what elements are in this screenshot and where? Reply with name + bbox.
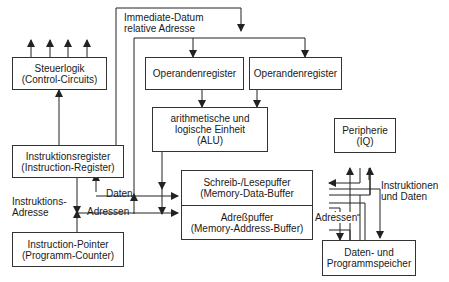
instructions-data-label: Instruktionen und Daten: [381, 180, 438, 202]
instructions-data-line1: Instruktionen: [381, 180, 438, 191]
memory-address-buffer-block: Adreßpuffer (Memory-Address-Buffer): [181, 205, 313, 240]
ip-subtitle: (Programm-Counter): [22, 250, 114, 261]
memory-subtitle: Programmspeicher: [327, 258, 411, 269]
alu-line1: arithmetische und: [171, 113, 250, 124]
alu-block: arithmetische und logische Einheit (ALU): [152, 107, 268, 152]
peripheral-block: Peripherie (IQ): [334, 118, 396, 153]
mdb-subtitle: (Memory-Data-Buffer: [200, 188, 294, 199]
instruction-address-line2: Adresse: [12, 207, 66, 218]
adressen-left-label: Adressen: [87, 206, 129, 217]
periph-subtitle: (IQ): [356, 136, 373, 147]
opreg1-title: Operandenregister: [153, 68, 236, 79]
periph-title: Peripherie: [342, 125, 388, 136]
instruction-pointer-block: Instruction-Pointer (Programm-Counter): [12, 232, 124, 267]
daten-label: Daten: [106, 188, 133, 199]
control-title: Steuerlogik: [34, 63, 84, 74]
adressen-right-label: Adressen: [315, 212, 357, 223]
immediate-label-line1: Immediate-Datum: [124, 12, 203, 23]
ir-title: Instruktionsregister: [26, 151, 110, 162]
mab-title: Adreßpuffer: [221, 212, 274, 223]
immediate-label: Immediate-Datum relative Adresse: [124, 12, 203, 34]
control-subtitle: (Control-Circuits): [22, 74, 98, 85]
memory-data-buffer-block: Schreib-/Lesepuffer (Memory-Data-Buffer: [181, 170, 313, 206]
control-circuits-block: Steuerlogik (Control-Circuits): [12, 57, 107, 90]
instruction-address-label: Instruktions- Adresse: [12, 196, 66, 218]
alu-line2: logische Einheit: [175, 124, 245, 135]
immediate-label-line2: relative Adresse: [124, 23, 203, 34]
instruction-address-line1: Instruktions-: [12, 196, 66, 207]
instruction-register-block: Instruktionsregister (Instruction-Regist…: [12, 145, 124, 178]
opreg2-title: Operandenregister: [254, 68, 337, 79]
ip-title: Instruction-Pointer: [27, 239, 108, 250]
alu-line3: (ALU): [197, 135, 223, 146]
ir-subtitle: (Instruction-Register): [21, 162, 114, 173]
mdb-title: Schreib-/Lesepuffer: [203, 177, 290, 188]
data-program-memory-block: Daten- und Programmspeicher: [322, 240, 416, 276]
operand-register-2: Operandenregister: [249, 57, 342, 90]
memory-title: Daten- und: [344, 247, 393, 258]
mab-subtitle: (Memory-Address-Buffer): [191, 223, 304, 234]
instructions-data-line2: und Daten: [381, 191, 438, 202]
operand-register-1: Operandenregister: [145, 57, 244, 90]
